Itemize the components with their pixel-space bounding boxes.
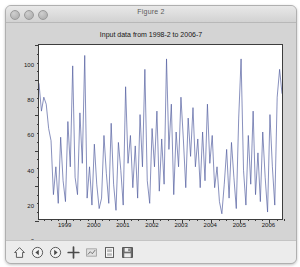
x-minor-tick-mark — [197, 219, 198, 221]
y-minor-tick-mark — [37, 203, 39, 204]
x-minor-tick-mark — [80, 219, 81, 221]
y-minor-tick-mark — [37, 195, 39, 196]
y-minor-tick-mark — [37, 133, 39, 134]
x-minor-tick-mark — [117, 219, 118, 221]
y-axis-tick-labels: 020406080100 — [11, 44, 36, 220]
x-minor-tick-mark — [262, 219, 263, 221]
x-minor-tick-mark — [255, 219, 256, 221]
y-minor-tick-mark — [37, 159, 39, 160]
x-minor-tick-mark — [204, 219, 205, 221]
y-tick-label: 60 — [27, 132, 34, 138]
y-tick-mark — [35, 186, 39, 187]
x-minor-tick-mark — [58, 219, 59, 221]
y-minor-tick-mark — [37, 89, 39, 90]
x-minor-tick-mark — [73, 219, 74, 221]
x-tick-label: 2006 — [262, 222, 275, 228]
y-minor-tick-mark — [37, 177, 39, 178]
y-minor-tick-mark — [37, 124, 39, 125]
plot-title: Input data from 1998-2 to 2006-7 — [6, 31, 296, 38]
configure-subplots-icon[interactable] — [101, 244, 118, 261]
x-minor-tick-mark — [138, 219, 139, 221]
x-minor-tick-mark — [102, 219, 103, 221]
y-minor-tick-mark — [37, 98, 39, 99]
y-tick-label: 20 — [27, 203, 34, 209]
y-tick-label: 80 — [27, 97, 34, 103]
x-minor-tick-mark — [175, 219, 176, 221]
y-tick-label: 100 — [24, 62, 34, 68]
y-tick-mark — [35, 115, 39, 116]
x-minor-tick-mark — [284, 219, 285, 221]
x-minor-tick-mark — [160, 219, 161, 221]
x-tick-label: 2000 — [87, 222, 100, 228]
zoom-rectangle-icon[interactable] — [83, 244, 100, 261]
window-title: Figure 2 — [6, 8, 296, 15]
forward-arrow-icon[interactable] — [47, 244, 64, 261]
x-axis-tick-labels: 19992000200120022003200420052006 — [38, 222, 283, 234]
x-tick-label: 2002 — [145, 222, 158, 228]
y-minor-tick-mark — [37, 54, 39, 55]
matplotlib-toolbar — [6, 240, 296, 263]
x-tick-label: 2004 — [204, 222, 217, 228]
x-minor-tick-mark — [219, 219, 220, 221]
x-minor-tick-mark — [233, 219, 234, 221]
y-minor-tick-mark — [37, 71, 39, 72]
x-minor-tick-mark — [146, 219, 147, 221]
window-titlebar[interactable]: Figure 2 — [6, 6, 296, 23]
home-icon[interactable] — [11, 244, 28, 261]
y-tick-label: 40 — [27, 168, 34, 174]
figure-canvas: Input data from 1998-2 to 2006-7 0204060… — [6, 23, 296, 241]
back-arrow-icon[interactable] — [29, 244, 46, 261]
x-minor-tick-mark — [131, 219, 132, 221]
x-minor-tick-mark — [248, 219, 249, 221]
data-line-series — [39, 45, 282, 219]
x-minor-tick-mark — [277, 219, 278, 221]
y-minor-tick-mark — [37, 142, 39, 143]
y-tick-mark — [35, 45, 39, 46]
x-minor-tick-mark — [189, 219, 190, 221]
y-minor-tick-mark — [37, 212, 39, 213]
x-tick-label: 1999 — [58, 222, 71, 228]
x-minor-tick-mark — [109, 219, 110, 221]
x-minor-tick-mark — [51, 219, 52, 221]
x-tick-label: 2001 — [116, 222, 129, 228]
x-minor-tick-mark — [168, 219, 169, 221]
y-minor-tick-mark — [37, 63, 39, 64]
x-minor-tick-mark — [226, 219, 227, 221]
y-tick-mark — [35, 151, 39, 152]
pan-move-icon[interactable] — [65, 244, 82, 261]
y-minor-tick-mark — [37, 107, 39, 108]
figure-window: Figure 2 Input data from 1998-2 to 2006-… — [5, 5, 297, 264]
x-tick-label: 2003 — [174, 222, 187, 228]
x-tick-label: 2005 — [233, 222, 246, 228]
x-minor-tick-mark — [88, 219, 89, 221]
y-tick-mark — [35, 80, 39, 81]
y-minor-tick-mark — [37, 168, 39, 169]
save-floppy-icon[interactable] — [119, 244, 136, 261]
x-minor-tick-mark — [44, 219, 45, 221]
plot-axes[interactable] — [38, 44, 283, 220]
